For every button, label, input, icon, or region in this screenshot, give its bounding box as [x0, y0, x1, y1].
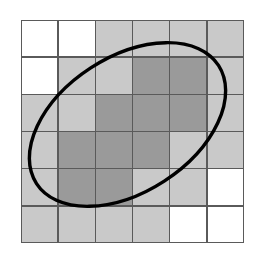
- grid-cell: [133, 94, 171, 132]
- grid-cell: [170, 206, 208, 243]
- grid-cell: [95, 206, 133, 243]
- grid-cell: [133, 169, 171, 207]
- grid-cell: [133, 206, 171, 243]
- grid-cell: [58, 94, 96, 132]
- grid-cell: [21, 20, 59, 58]
- figure-canvas: [0, 0, 262, 260]
- grid-cell: [58, 169, 96, 207]
- grid-cells-layer: [21, 20, 244, 243]
- grid-cell: [170, 169, 208, 207]
- grid-cell: [58, 57, 96, 95]
- grid-cell: [58, 132, 96, 170]
- grid-cell: [170, 20, 208, 58]
- grid-cell: [95, 169, 133, 207]
- grid-cell: [207, 132, 244, 170]
- grid-cell: [207, 169, 244, 207]
- grid-cell: [21, 132, 59, 170]
- grid-cell: [58, 206, 96, 243]
- grid-cell: [170, 57, 208, 95]
- grid-cell: [170, 132, 208, 170]
- grid-container: [21, 20, 244, 243]
- grid-cell: [133, 132, 171, 170]
- grid-cell: [95, 57, 133, 95]
- grid-cell: [21, 206, 59, 243]
- grid-cell: [21, 57, 59, 95]
- grid-cell: [133, 20, 171, 58]
- grid-cell: [21, 169, 59, 207]
- grid-cell: [95, 94, 133, 132]
- grid-cell: [21, 94, 59, 132]
- grid-cell: [207, 57, 244, 95]
- grid-cell: [207, 94, 244, 132]
- grid-cell: [170, 94, 208, 132]
- grid-cell: [95, 132, 133, 170]
- grid-cell: [207, 20, 244, 58]
- grid-cell: [133, 57, 171, 95]
- grid-cell: [58, 20, 96, 58]
- grid-cell: [95, 20, 133, 58]
- grid-cell: [207, 206, 244, 243]
